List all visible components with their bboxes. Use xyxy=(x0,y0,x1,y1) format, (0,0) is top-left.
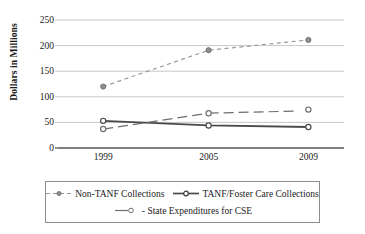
series-line xyxy=(103,40,308,87)
y-tick-label: 50 xyxy=(20,117,54,127)
data-point-marker xyxy=(101,84,106,89)
y-tick-label: 200 xyxy=(20,41,54,51)
legend-label-state-expenditures-for-cse: - State Expenditures for CSE xyxy=(142,206,252,216)
data-point-marker xyxy=(101,126,106,131)
x-tick-label: 2005 xyxy=(179,152,239,162)
plot-area xyxy=(59,20,344,148)
data-series-layer xyxy=(59,20,344,148)
legend-item-non-tanf-collections[interactable]: Non-TANF Collections xyxy=(46,189,164,199)
y-axis-tick-labels: 050100150200250 xyxy=(18,20,54,148)
legend-label-non-tanf-collections: Non-TANF Collections xyxy=(75,189,164,199)
legend-item-tanf-foster-care-collections[interactable]: TANF/Foster Care Collections xyxy=(173,189,318,199)
legend-item-state-expenditures-for-cse[interactable]: - State Expenditures for CSE xyxy=(113,206,252,216)
x-tick-label: 1999 xyxy=(73,152,133,162)
y-tick-label: 0 xyxy=(20,143,54,153)
data-point-marker xyxy=(101,118,106,123)
line-chart-figure: Dollars in Millions 050100150200250 1999… xyxy=(0,0,365,234)
data-point-marker xyxy=(306,107,311,112)
data-point-marker xyxy=(306,37,311,42)
x-axis-tick-labels: 199920052009 xyxy=(59,152,344,166)
series-3 xyxy=(101,107,311,132)
solid-circle-marker-icon xyxy=(173,189,199,198)
data-point-marker xyxy=(206,111,211,116)
y-tick-label: 250 xyxy=(20,15,54,25)
series-2 xyxy=(101,118,311,129)
data-point-marker xyxy=(206,123,211,128)
dashed-dot-marker-icon xyxy=(46,189,72,198)
legend-row-2: - State Expenditures for CSE xyxy=(46,202,319,219)
series-line-segment xyxy=(209,111,295,113)
series-1 xyxy=(101,37,311,89)
chart-legend: Non-TANF Collections TANF/Foster Care Co… xyxy=(45,181,320,223)
y-tick-label: 100 xyxy=(20,92,54,102)
x-tick-label: 2009 xyxy=(278,152,338,162)
line-open-circle-marker-icon xyxy=(113,206,139,215)
data-point-marker xyxy=(206,48,211,53)
data-point-marker xyxy=(306,124,311,129)
legend-label-tanf-foster-care-collections: TANF/Foster Care Collections xyxy=(202,189,318,199)
y-tick-label: 150 xyxy=(20,66,54,76)
legend-row-1: Non-TANF Collections TANF/Foster Care Co… xyxy=(46,185,319,202)
